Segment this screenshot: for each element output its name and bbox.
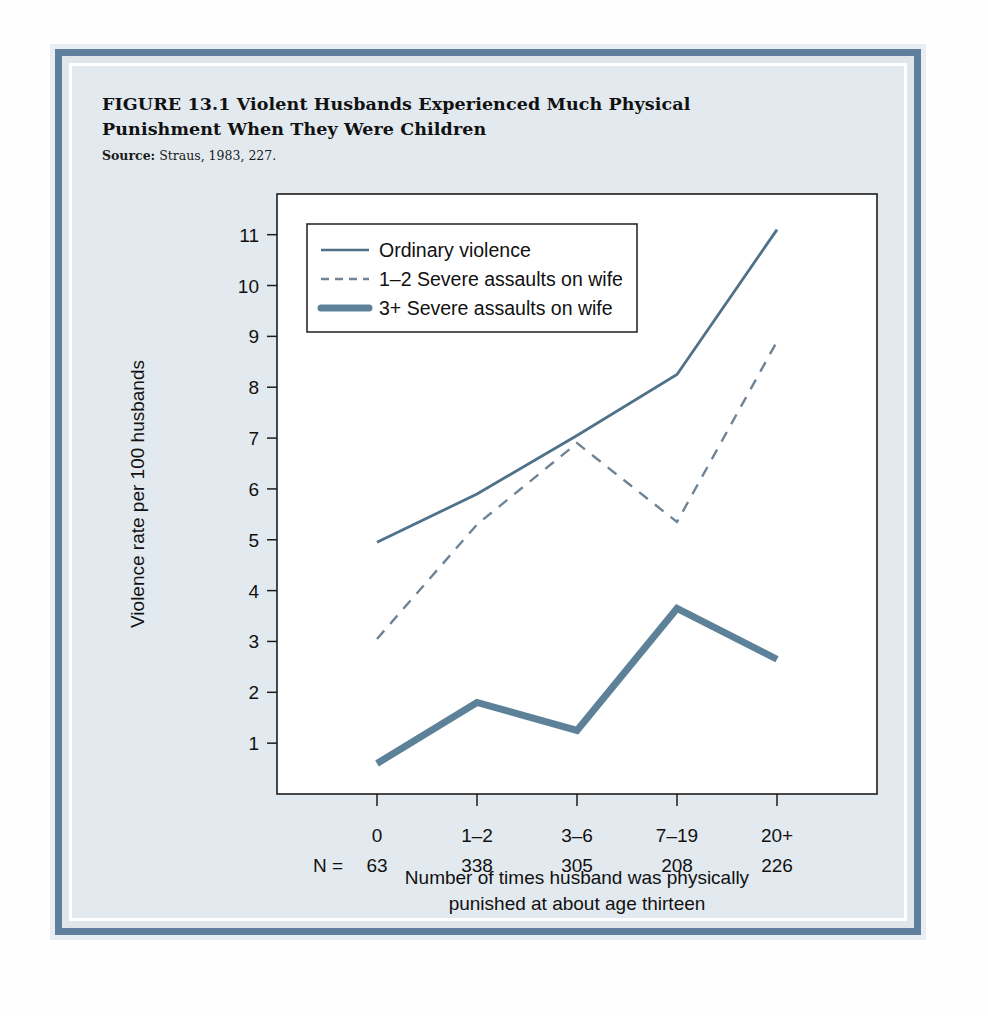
x-category-label: 7–19 <box>656 825 698 846</box>
y-tick-label: 1 <box>248 733 259 754</box>
figure-page: FIGURE 13.1 Violent Husbands Experienced… <box>0 0 988 1016</box>
y-tick-label: 4 <box>248 581 259 602</box>
line-chart: 1234567891011 Ordinary violence1–2 Sever… <box>102 184 892 924</box>
y-tick-label: 6 <box>248 479 259 500</box>
legend-label-1: Ordinary violence <box>379 239 531 261</box>
y-tick-label: 9 <box>248 326 259 347</box>
x-n-value: 63 <box>366 855 387 876</box>
y-tick-label: 10 <box>238 276 259 297</box>
x-axis-title-line1: Number of times husband was physically <box>405 867 750 888</box>
y-tick-label: 2 <box>248 682 259 703</box>
y-axis-title: Violence rate per 100 husbands <box>127 360 148 628</box>
n-prefix-label: N = <box>313 855 343 876</box>
y-tick-label: 3 <box>248 631 259 652</box>
y-tick-label: 7 <box>248 428 259 449</box>
figure-source-text: Straus, 1983, 227. <box>155 148 276 163</box>
x-category-label: 3–6 <box>561 825 593 846</box>
chart-container: 1234567891011 Ordinary violence1–2 Sever… <box>102 184 892 924</box>
y-axis: 1234567891011 <box>238 225 277 754</box>
chart-legend: Ordinary violence1–2 Severe assaults on … <box>307 224 637 332</box>
x-axis <box>377 794 777 806</box>
x-category-label: 0 <box>372 825 383 846</box>
x-category-label: 1–2 <box>461 825 493 846</box>
figure-frame-outer: FIGURE 13.1 Violent Husbands Experienced… <box>48 42 928 942</box>
legend-label-2: 1–2 Severe assaults on wife <box>379 268 623 290</box>
figure-title: FIGURE 13.1 Violent Husbands Experienced… <box>102 92 762 142</box>
y-tick-label: 5 <box>248 530 259 551</box>
legend-label-3: 3+ Severe assaults on wife <box>379 297 613 319</box>
figure-source-label: Source: <box>102 148 155 163</box>
x-category-label: 20+ <box>761 825 793 846</box>
figure-frame-border: FIGURE 13.1 Violent Husbands Experienced… <box>55 49 921 935</box>
figure-content: FIGURE 13.1 Violent Husbands Experienced… <box>72 66 904 918</box>
figure-source: Source: Straus, 1983, 227. <box>102 148 874 163</box>
x-axis-title-line2: punished at about age thirteen <box>449 893 706 914</box>
y-tick-label: 11 <box>239 225 259 246</box>
x-n-value: 226 <box>761 855 793 876</box>
y-tick-label: 8 <box>248 377 259 398</box>
figure-frame-inner: FIGURE 13.1 Violent Husbands Experienced… <box>69 63 907 921</box>
